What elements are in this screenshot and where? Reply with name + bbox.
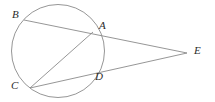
- circle-shape: [12, 5, 105, 98]
- point-label-d: D: [95, 71, 103, 82]
- secant-line-c-e: [30, 53, 187, 88]
- point-label-b: B: [12, 9, 19, 20]
- geometry-figure: B A C D E: [0, 0, 215, 102]
- point-label-c: C: [11, 80, 18, 91]
- chord-line-c-a: [30, 32, 93, 88]
- point-label-e: E: [194, 45, 201, 56]
- geometry-canvas: [0, 0, 215, 102]
- point-label-a: A: [99, 20, 106, 31]
